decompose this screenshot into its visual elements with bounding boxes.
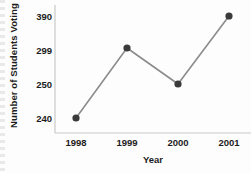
data-line (76, 16, 229, 118)
data-point-marker (72, 114, 79, 121)
data-point-marker (225, 12, 232, 19)
data-point-marker (123, 44, 130, 51)
data-point-marker (174, 80, 181, 87)
chart-figure: Number of Students Voting 390 299 250 24… (0, 0, 251, 173)
plot-area (0, 0, 251, 173)
